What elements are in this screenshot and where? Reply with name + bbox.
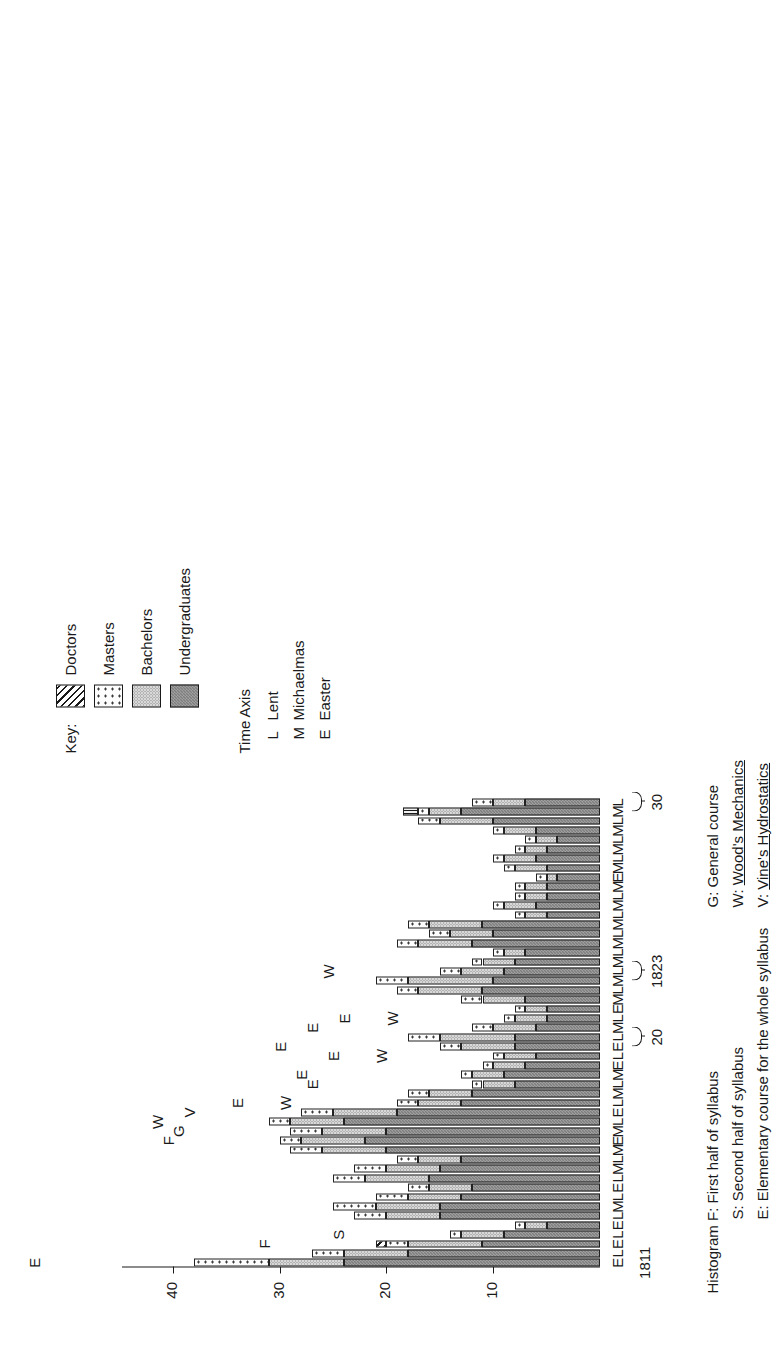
bar-segment-master xyxy=(440,967,461,975)
bar-segment-bachelor xyxy=(269,1258,344,1266)
bar-column xyxy=(472,958,600,966)
bar-segment-undergrad xyxy=(547,1005,600,1013)
bar-segment-undergrad xyxy=(440,1202,600,1210)
legend-swatch-master xyxy=(94,684,123,707)
bar-column xyxy=(397,986,600,994)
plot-area: 10203040 ELELELMLELMLMEMLELMLMELELMLEMLM… xyxy=(0,0,780,1353)
bar-segment-master xyxy=(450,1230,461,1238)
bar-column xyxy=(440,1042,600,1050)
bar-column xyxy=(515,1005,600,1013)
bar-segment-undergrad xyxy=(429,1174,600,1182)
bar-column xyxy=(290,1127,600,1135)
bar-segment-bachelor xyxy=(440,1033,515,1041)
bar-column xyxy=(333,1174,600,1182)
bar-column xyxy=(461,1070,600,1078)
bar-segment-master xyxy=(483,1061,494,1069)
bar-column xyxy=(376,1193,600,1201)
bar-column xyxy=(403,807,600,815)
legend-swatch-undergrad xyxy=(170,684,199,707)
bar-segment-master xyxy=(472,798,493,806)
legend-key-label: Doctors xyxy=(62,623,79,675)
bar-annotation-letter: V xyxy=(181,1101,198,1123)
bar-segment-undergrad xyxy=(482,920,600,928)
bar-segment-master xyxy=(312,1249,344,1257)
bar-column xyxy=(483,1061,601,1069)
bar-segment-bachelor xyxy=(504,948,525,956)
year-label: 1811 xyxy=(636,1232,653,1292)
bar-segment-undergrad xyxy=(515,1080,600,1088)
bar-segment-bachelor xyxy=(525,1221,546,1229)
bar-segment-bachelor xyxy=(418,986,482,994)
bar-segment-master xyxy=(536,873,547,881)
bar-segment-bachelor xyxy=(504,901,536,909)
bar-segment-master xyxy=(376,1193,408,1201)
bar-segment-bachelor xyxy=(408,976,493,984)
bar-column xyxy=(440,967,600,975)
bar-segment-bachelor xyxy=(429,920,482,928)
bar-segment-bachelor xyxy=(418,1099,461,1107)
y-axis-tick-label: 20 xyxy=(376,1281,393,1315)
bar-segment-bachelor xyxy=(525,845,546,853)
bar-column xyxy=(515,1221,600,1229)
y-axis-tick-label: 30 xyxy=(270,1281,287,1315)
bar-column xyxy=(397,1155,600,1163)
bar-segment-master xyxy=(354,1164,386,1172)
legend-key-label: Masters xyxy=(100,622,117,675)
bar-segment-master xyxy=(397,939,418,947)
bar-segment-bachelor xyxy=(525,1005,546,1013)
bar-segment-master xyxy=(461,995,482,1003)
bar-segment-master xyxy=(493,948,504,956)
bar-segment-undergrad xyxy=(365,1136,600,1144)
bar-segment-undergrad xyxy=(515,958,600,966)
bar-segment-undergrad xyxy=(344,1117,600,1125)
bar-segment-undergrad xyxy=(557,873,600,881)
legend-time-code: L xyxy=(264,720,281,739)
bar-column xyxy=(450,1230,600,1238)
bar-segment-bachelor xyxy=(483,958,515,966)
bar-segment-bachelor xyxy=(461,1230,504,1238)
bar-segment-undergrad xyxy=(408,1249,600,1257)
bar-column xyxy=(397,1099,600,1107)
bar-segment-master xyxy=(269,1117,290,1125)
bar-segment-undergrad xyxy=(504,1230,600,1238)
bar-annotation-letter: W xyxy=(277,1092,294,1114)
bar-segment-bachelor xyxy=(365,1174,429,1182)
y-axis-tick-label: 40 xyxy=(163,1281,180,1315)
bar-segment-undergrad xyxy=(472,1089,600,1097)
bar-annotation-letter: S xyxy=(330,1223,347,1245)
footnote-right-line: W: Wood's Mechanics xyxy=(725,760,750,907)
bar-segment-bachelor xyxy=(301,1136,365,1144)
bar-column xyxy=(472,1023,600,1031)
bar-segment-master xyxy=(493,854,504,862)
bar-segment-bachelor xyxy=(429,807,461,815)
bar-segment-master xyxy=(472,958,483,966)
legend-time-label: Michaelmas xyxy=(290,640,307,720)
bar-column xyxy=(376,1240,600,1248)
bar-column xyxy=(472,1080,600,1088)
bar-segment-bachelor xyxy=(493,1061,525,1069)
bar-segment-bachelor xyxy=(472,1070,504,1078)
bar-segment-bachelor xyxy=(429,1089,472,1097)
bar-segment-undergrad xyxy=(536,826,600,834)
bar-segment-undergrad xyxy=(536,854,600,862)
bar-segment-undergrad xyxy=(397,1108,600,1116)
bar-column xyxy=(354,1164,600,1172)
bar-segment-undergrad xyxy=(547,845,600,853)
bar-segment-undergrad xyxy=(386,1146,600,1154)
bar-segment-undergrad xyxy=(493,976,600,984)
bar-segment-undergrad xyxy=(525,1061,600,1069)
bar-segment-bachelor xyxy=(515,1014,547,1022)
bar-column xyxy=(504,864,600,872)
footnote-underlined-title: Vine's Hydrostatics xyxy=(754,762,771,889)
bar-segment-undergrad xyxy=(547,864,600,872)
bar-annotation-letter: W xyxy=(384,1007,401,1029)
bar-segment-master xyxy=(493,826,504,834)
bar-segment-bachelor xyxy=(418,939,471,947)
bar-segment-undergrad xyxy=(461,807,600,815)
bar-segment-bachelor xyxy=(515,864,547,872)
footnote-left-line: S: Second half of syllabus xyxy=(725,927,750,1293)
bar-segment-master xyxy=(418,807,429,815)
bar-segment-undergrad xyxy=(504,1070,600,1078)
bar-segment-undergrad xyxy=(536,1023,600,1031)
bar-segment-bachelor xyxy=(440,817,493,825)
